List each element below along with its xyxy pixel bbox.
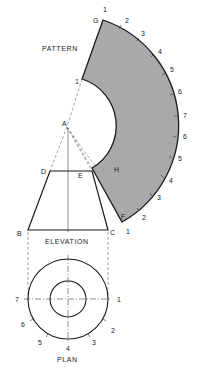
point-d-label: D — [41, 168, 46, 175]
point-b-label: B — [17, 230, 22, 237]
svg-text:4: 4 — [169, 177, 173, 184]
point-g-label: G — [93, 17, 98, 24]
svg-text:6: 6 — [21, 321, 25, 328]
point-a-label: A — [62, 120, 67, 127]
svg-text:7: 7 — [15, 296, 19, 303]
pattern-shape — [82, 20, 179, 222]
svg-text:6: 6 — [178, 88, 182, 95]
svg-text:1: 1 — [103, 6, 107, 13]
svg-text:4: 4 — [158, 48, 162, 55]
svg-text:2: 2 — [111, 327, 115, 334]
point-h-label: H — [114, 166, 119, 173]
svg-text:5: 5 — [170, 66, 174, 73]
svg-text:1: 1 — [126, 228, 130, 235]
point-c-label: C — [110, 229, 115, 236]
svg-text:2: 2 — [142, 214, 146, 221]
drawing-canvas: PATTERN G H F 1 1 2 3 4 5 6 7 6 5 4 3 2 … — [0, 0, 201, 380]
svg-text:3: 3 — [92, 339, 96, 346]
svg-text:5: 5 — [178, 155, 182, 162]
plan-label: PLAN — [57, 356, 78, 363]
elevation-label: ELEVATION — [45, 238, 89, 245]
svg-text:5: 5 — [38, 339, 42, 346]
pattern-label: PATTERN — [42, 45, 78, 52]
svg-text:3: 3 — [157, 194, 161, 201]
inner-start-label: 1 — [75, 78, 79, 85]
svg-text:2: 2 — [125, 17, 129, 24]
svg-text:1: 1 — [117, 296, 121, 303]
svg-text:3: 3 — [141, 30, 145, 37]
point-e-label: E — [78, 172, 83, 179]
plan-view: 1 2 3 4 5 6 7 PLAN — [15, 255, 121, 363]
svg-text:4: 4 — [66, 345, 70, 352]
svg-text:7: 7 — [183, 112, 187, 119]
svg-text:6: 6 — [183, 133, 187, 140]
point-f-label: F — [121, 213, 125, 220]
